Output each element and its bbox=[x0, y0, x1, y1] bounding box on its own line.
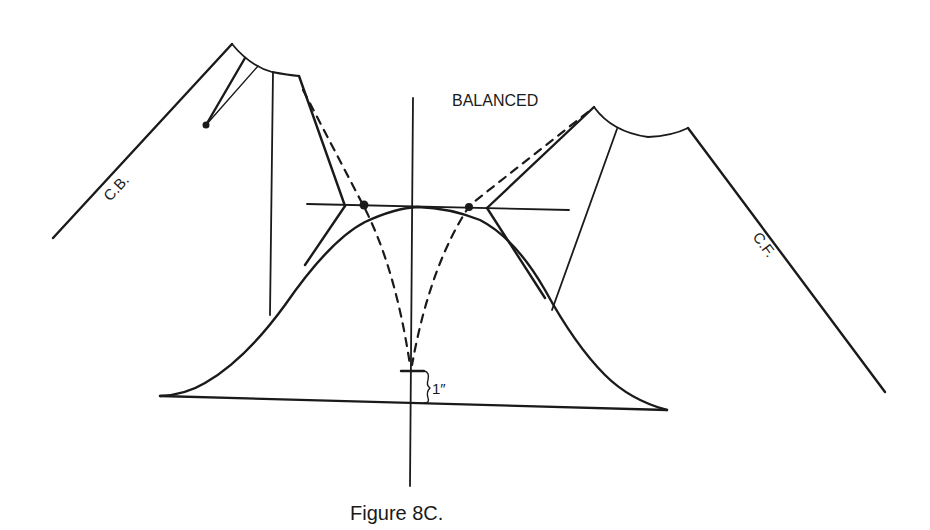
measurement-label: 1″ bbox=[432, 380, 446, 397]
back-armhole-lower bbox=[305, 206, 345, 265]
sleeve: 1″ bbox=[160, 98, 667, 486]
back-dart-point bbox=[203, 122, 210, 129]
front-dashed-line bbox=[412, 112, 588, 365]
balanced-label: BALANCED bbox=[452, 92, 538, 109]
back-dart-leg-2 bbox=[206, 66, 258, 125]
front-neckline bbox=[594, 107, 688, 137]
center-front-line bbox=[688, 128, 885, 392]
pattern-diagram: 1″ BALANCED C.B. C.F. Figure 8C. bbox=[0, 0, 930, 530]
center-back-label: C.B. bbox=[100, 171, 132, 204]
front-armhole-lower bbox=[487, 208, 545, 298]
center-front-label: C.F. bbox=[750, 229, 780, 261]
front-shoulder-line bbox=[487, 107, 594, 208]
front-guide-line bbox=[552, 129, 617, 310]
sleeve-center-line bbox=[410, 98, 413, 486]
sleeve-hem-line bbox=[160, 396, 667, 410]
sleeve-cap-curve bbox=[160, 207, 667, 410]
one-inch-brace bbox=[424, 371, 430, 403]
figure-caption: Figure 8C. bbox=[350, 502, 443, 524]
back-dart-leg-1 bbox=[206, 58, 245, 125]
back-guide-line bbox=[270, 72, 273, 315]
back-neckline bbox=[232, 44, 299, 76]
front-bodice bbox=[412, 107, 885, 392]
center-back-line bbox=[53, 44, 232, 238]
